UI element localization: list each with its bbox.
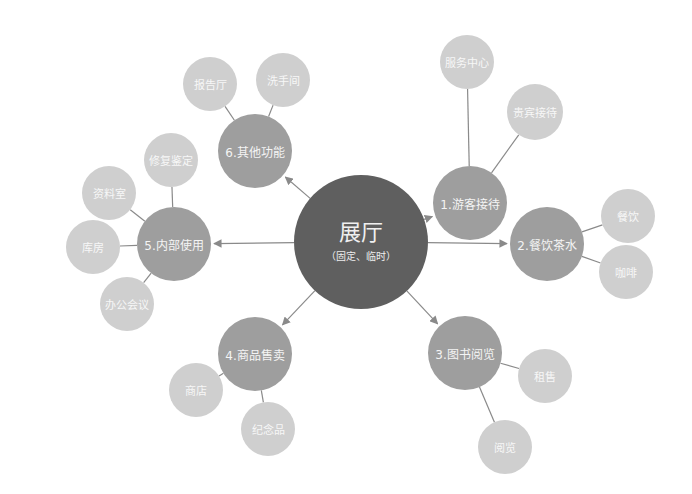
line-connector: [479, 387, 494, 422]
line-connector: [261, 390, 263, 402]
leaf-node: 商店: [169, 363, 223, 417]
leaf-label: 阅览: [494, 439, 516, 455]
leaf-label: 租售: [534, 368, 556, 384]
category-label: 5.内部使用: [144, 236, 203, 253]
leaf-label: 纪念品: [252, 421, 285, 437]
arrow-connector: [282, 291, 314, 325]
category-label: 4.商品售卖: [225, 346, 284, 363]
line-connector: [225, 106, 234, 120]
arrow-connector: [285, 177, 310, 198]
line-connector: [144, 273, 152, 283]
category-node: 6.其他功能: [218, 114, 292, 188]
leaf-label: 资料室: [93, 185, 126, 201]
leaf-label: 修复鉴定: [149, 152, 193, 168]
category-label: 1.游客接待: [440, 195, 499, 212]
leaf-label: 贵宾接待: [513, 104, 557, 120]
leaf-node: 纪念品: [241, 402, 295, 456]
line-connector: [269, 105, 274, 116]
line-connector: [582, 256, 601, 263]
center-subtitle: （固定、临时）: [326, 248, 396, 263]
leaf-node: 洗手间: [256, 53, 310, 107]
leaf-node: 咖啡: [599, 245, 653, 299]
category-node: 1.游客接待: [433, 166, 507, 240]
leaf-label: 咖啡: [615, 264, 637, 280]
leaf-node: 贵宾接待: [507, 84, 563, 140]
category-node: 5.内部使用: [137, 207, 211, 281]
category-label: 6.其他功能: [225, 143, 284, 160]
leaf-node: 租售: [518, 349, 572, 403]
center-title: 展厅: [339, 221, 383, 245]
arrow-connector: [214, 243, 294, 244]
arrow-connector: [424, 216, 432, 219]
leaf-node: 报告厅: [183, 57, 237, 111]
category-label: 2.餐饮茶水: [517, 236, 576, 253]
leaf-node: 库房: [66, 220, 120, 274]
leaf-node: 餐饮: [601, 189, 655, 243]
category-node: 4.商品售卖: [218, 317, 292, 391]
arrow-connector: [407, 291, 438, 324]
center-node-exhibition-hall: 展厅 （固定、临时）: [294, 175, 428, 309]
leaf-label: 餐饮: [617, 208, 639, 224]
line-connector: [492, 135, 519, 173]
leaf-node: 资料室: [82, 166, 136, 220]
line-connector: [172, 187, 173, 207]
line-connector: [130, 210, 145, 221]
line-connector: [468, 89, 470, 166]
category-label: 3.图书阅览: [435, 345, 494, 362]
leaf-label: 库房: [82, 239, 104, 255]
leaf-label: 报告厅: [194, 76, 227, 92]
leaf-node: 修复鉴定: [144, 133, 198, 187]
line-connector: [501, 363, 519, 368]
leaf-node: 阅览: [478, 420, 532, 474]
leaf-label: 办公会议: [105, 296, 149, 312]
line-connector: [120, 245, 137, 246]
line-connector: [582, 225, 603, 232]
exhibition-hall-mind-map: 展厅 （固定、临时） 1.游客接待服务中心贵宾接待2.餐饮茶水餐饮咖啡3.图书阅…: [0, 0, 692, 494]
leaf-label: 洗手间: [267, 72, 300, 88]
leaf-label: 商店: [185, 382, 207, 398]
leaf-node: 服务中心: [440, 35, 494, 89]
leaf-node: 办公会议: [100, 277, 154, 331]
arrow-connector: [428, 243, 507, 244]
category-node: 3.图书阅览: [428, 316, 502, 390]
leaf-label: 服务中心: [445, 54, 489, 70]
category-node: 2.餐饮茶水: [510, 207, 584, 281]
